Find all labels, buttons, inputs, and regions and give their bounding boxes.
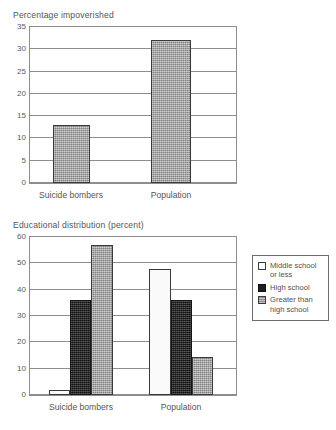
y-tick-label: 20 [17, 88, 26, 97]
bar-population [151, 40, 191, 183]
legend-label: Middle school or less [270, 261, 316, 280]
y-tick-label: 30 [17, 44, 26, 53]
gridline: 20 [30, 93, 236, 94]
gridline: 30 [30, 315, 236, 316]
legend: Middle school or less High school Greate… [252, 255, 329, 321]
x-tick-label-suicide-bombers: Suicide bombers [39, 190, 103, 200]
y-tick-label: 0 [22, 390, 26, 399]
gridline: 25 [30, 71, 236, 72]
gridline: 15 [30, 115, 236, 116]
x-tick-label-population: Population [161, 402, 202, 412]
bar-population-high-school [171, 300, 192, 395]
gridline: 30 [30, 48, 236, 49]
y-tick-label: 5 [22, 155, 26, 164]
y-tick-label: 30 [17, 311, 26, 320]
legend-label: High school [270, 283, 310, 292]
y-tick-label: 10 [17, 363, 26, 372]
bar-population-middle-school-or-less [149, 269, 171, 395]
bar-suicide-bombers-high-school [70, 300, 91, 395]
y-tick-label: 40 [17, 284, 26, 293]
gridline: 20 [30, 341, 236, 342]
y-tick-label: 15 [17, 111, 26, 120]
y-tick-label: 10 [17, 133, 26, 142]
bar-suicide-bombers [53, 125, 90, 183]
bar-suicide-bombers-greater-than-high-school [91, 245, 113, 395]
gridline: 35 [30, 26, 236, 27]
y-tick-label: 25 [17, 66, 26, 75]
x-tick-label-suicide-bombers: Suicide bombers [49, 402, 113, 412]
gridline: 50 [30, 262, 236, 263]
legend-swatch-icon [258, 284, 266, 292]
y-tick-label: 50 [17, 258, 26, 267]
chart-title: Percentage impoverished [13, 10, 114, 20]
bar-suicide-bombers-middle-school-or-less [49, 390, 70, 395]
legend-item-greater-than-high-school: Greater than high school [258, 295, 324, 314]
y-tick-label: 60 [17, 232, 26, 241]
legend-item-middle-school-or-less: Middle school or less [258, 261, 324, 280]
y-tick-label: 20 [17, 337, 26, 346]
legend-label: Greater than high school [270, 295, 313, 314]
y-tick-label: 35 [17, 22, 26, 31]
legend-item-high-school: High school [258, 283, 324, 292]
x-tick-label-population: Population [151, 190, 192, 200]
legend-swatch-icon [258, 296, 266, 304]
bar-population-greater-than-high-school [192, 357, 213, 395]
plot-area-impoverished: 35 30 25 20 15 10 5 0 Suicide bombers Po… [29, 26, 237, 184]
chart-educational-distribution: Educational distribution (percent) 60 50… [0, 212, 336, 430]
gridline: 40 [30, 289, 236, 290]
gridline: 60 [30, 236, 236, 237]
y-tick-label: 0 [22, 178, 26, 187]
legend-swatch-icon [258, 262, 266, 270]
plot-area-education: 60 50 40 30 20 10 0 Suicide bombers Popu… [29, 236, 237, 396]
chart-title: Educational distribution (percent) [13, 220, 144, 230]
chart-percentage-impoverished: Percentage impoverished 35 30 25 20 15 1… [0, 0, 336, 215]
